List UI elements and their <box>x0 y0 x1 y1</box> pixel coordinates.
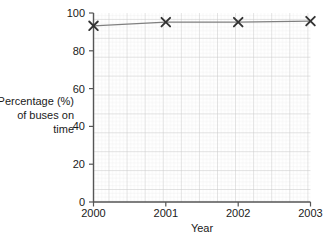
line-chart: 100 80 60 40 20 0 2000 2001 2002 2003 Pe… <box>0 0 336 238</box>
y-tick-label: 40 <box>73 120 85 132</box>
y-tick-label: 80 <box>73 45 85 57</box>
x-tick-label: 2000 <box>81 207 105 219</box>
y-tick-label: 20 <box>73 158 85 170</box>
y-tick-labels: 100 80 60 40 20 0 <box>67 7 85 208</box>
plot-grid <box>94 13 311 202</box>
x-tick-labels: 2000 2001 2002 2003 <box>81 207 322 219</box>
y-axis-title-line-1: Percentage (%) <box>0 95 74 107</box>
y-axis-title-line-2: of buses on <box>17 109 74 121</box>
y-axis-title-line-3: time <box>53 123 74 135</box>
y-tick-label: 60 <box>73 83 85 95</box>
x-tick-label: 2003 <box>298 207 322 219</box>
y-tick-label: 100 <box>67 7 85 19</box>
chart-canvas: 100 80 60 40 20 0 2000 2001 2002 2003 Pe… <box>0 0 336 238</box>
x-tick-label: 2002 <box>226 207 250 219</box>
x-axis-title: Year <box>191 222 214 234</box>
y-axis-title: Percentage (%) of buses on time <box>0 95 74 135</box>
x-tick-label: 2001 <box>154 207 178 219</box>
